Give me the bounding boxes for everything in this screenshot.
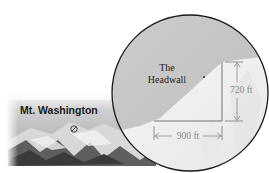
headwall-label-line1: The — [159, 62, 175, 73]
headwall-point-marker — [203, 76, 205, 78]
headwall-label-line2: Headwall — [148, 74, 187, 85]
width-value-label: 900 ft — [177, 131, 200, 141]
mountain-name-label: Mt. Washington — [20, 104, 98, 116]
headwall-diagram: Mt. Washington The Headwall 720 ft — [0, 0, 269, 173]
height-value-label: 720 ft — [230, 85, 253, 95]
